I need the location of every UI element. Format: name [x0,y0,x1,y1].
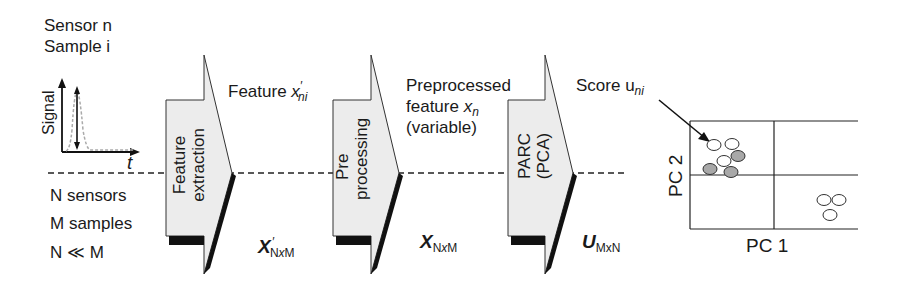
matrix-u: UMxN [582,232,620,258]
dim-b: M [285,246,295,260]
dim-b: M [447,241,457,255]
stage-label-line: Pre [333,96,352,226]
score-sub: ni [635,84,644,98]
feature-sub: ni [298,90,307,104]
stage-label-line: processing [352,96,371,226]
dim-a: N [270,246,279,260]
signal-axis-label: Signal [39,91,58,135]
score-point-open [832,195,846,206]
score-point-filled [724,167,738,178]
n-much-less-m-label: N ≪ M [50,243,104,263]
pre-feature-text: feature [406,97,459,116]
preprocessed-line1: Preprocessed [406,76,511,96]
stage-label-line: (PCA) [534,108,553,204]
signal-plot-icon [58,78,140,156]
matrix-dims: MxN [596,241,621,255]
score-point-filled [703,164,717,175]
pc1-axis-label: PC 1 [746,236,788,256]
score-point-filled [731,151,745,162]
dim-a: M [596,241,606,255]
matrix-dims: NxM [270,246,295,260]
score-point-open [717,156,731,167]
matrix-symbol: X [258,236,271,257]
sample-i-label: Sample i [44,37,110,57]
m-samples-label: M samples [50,214,132,234]
stage-label-line: PARC [515,108,534,204]
score-point-open [725,139,739,150]
pre-var: x [464,97,473,116]
score-point-open [707,140,721,151]
matrix-symbol: X [420,231,433,252]
stage-label-line: extraction [189,100,208,230]
matrix-symbol: U [582,231,596,252]
preprocessed-line3: (variable) [406,118,477,138]
pc2-axis-label: PC 2 [666,155,685,197]
dim-b: N [612,241,621,255]
matrix-x-prime: X′NxM [258,232,295,263]
score-annotation: Score uni [576,76,644,101]
stage-parc-label: PARC (PCA) [515,108,553,204]
sensor-n-label: Sensor n [44,16,112,36]
matrix-dims: NxM [433,241,458,255]
feature-text: Feature [228,82,287,101]
feature-annotation: Feature x′ni [228,76,307,107]
score-point-open [823,210,837,221]
n-sensors-label: N sensors [50,186,127,206]
matrix-x: XNxM [420,232,457,258]
score-point-open [817,195,831,206]
stage-preprocessing-label: Pre processing [333,96,371,226]
pre-sub: n [472,105,479,119]
stage-label-line: Feature [170,100,189,230]
score-text: Score u [576,76,635,95]
time-axis-label: t [127,153,132,173]
stage-feature-extraction-label: Feature extraction [170,100,208,230]
